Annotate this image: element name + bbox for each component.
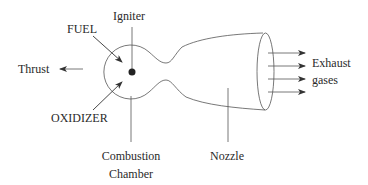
rocket-engine-diagram: Igniter FUEL OXIDIZER Thrust Combustion … bbox=[0, 0, 368, 185]
igniter-label: Igniter bbox=[113, 9, 145, 23]
igniter-dot bbox=[129, 69, 136, 76]
combustion-chamber bbox=[104, 45, 149, 99]
engine-lower-contour bbox=[149, 80, 265, 110]
exhaust-label-line2: gases bbox=[312, 73, 338, 87]
exhaust-label-line1: Exhaust bbox=[312, 56, 351, 70]
thrust-label: Thrust bbox=[18, 62, 50, 76]
nozzle-exit bbox=[257, 33, 274, 110]
nozzle-label: Nozzle bbox=[210, 149, 244, 163]
fuel-label: FUEL bbox=[67, 22, 97, 36]
combustion-chamber-label-line1: Combustion bbox=[102, 149, 161, 163]
combustion-chamber-label-line2: Chamber bbox=[109, 167, 153, 181]
engine-upper-contour bbox=[149, 33, 263, 63]
oxidizer-label: OXIDIZER bbox=[51, 111, 108, 125]
